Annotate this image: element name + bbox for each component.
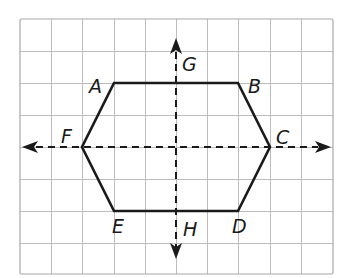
label-D: D xyxy=(232,215,247,237)
label-A: A xyxy=(87,75,102,97)
label-C: C xyxy=(276,126,290,148)
label-B: B xyxy=(248,75,261,97)
label-F: F xyxy=(61,125,73,147)
hexagon-symmetry-diagram: A B C F G E H D xyxy=(0,0,342,278)
label-G: G xyxy=(182,53,197,75)
label-H: H xyxy=(183,218,197,240)
label-E: E xyxy=(112,215,124,237)
